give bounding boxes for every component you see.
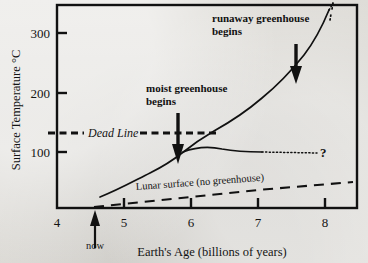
chart-svg: 300 200 100 4 5 6 7 8 Surface Temperatur…	[0, 0, 368, 263]
y-tick-label-100: 100	[31, 145, 51, 160]
x-tick-label-8: 8	[322, 215, 329, 230]
moist-greenhouse-arrow	[172, 113, 184, 164]
y-tick-label-200: 200	[31, 86, 51, 101]
x-axis-ticks	[124, 198, 325, 208]
lunar-surface-line	[94, 182, 353, 207]
x-tick-label-5: 5	[121, 215, 128, 230]
moist-greenhouse-label-line1: moist greenhouse	[146, 82, 227, 94]
now-marker: now	[86, 210, 105, 251]
greenhouse-curve	[100, 10, 329, 197]
runaway-greenhouse-label-line2: begins	[212, 25, 243, 37]
runaway-greenhouse-annotation: runaway greenhouse begins	[212, 12, 309, 84]
y-tick-label-300: 300	[31, 26, 51, 41]
now-marker-label: now	[86, 240, 105, 251]
runaway-greenhouse-arrow	[290, 44, 302, 84]
x-axis-title: Earth's Age (billions of years)	[137, 245, 286, 259]
y-axis-title: Surface Temperature °C	[9, 50, 23, 171]
x-tick-label-4: 4	[54, 215, 61, 230]
x-tick-label-7: 7	[255, 215, 262, 230]
x-tick-label-6: 6	[188, 215, 195, 230]
chart-figure: 300 200 100 4 5 6 7 8 Surface Temperatur…	[0, 0, 368, 263]
dead-line-label: Dead Line	[87, 126, 139, 140]
moist-greenhouse-branch-uncertain	[262, 152, 317, 153]
runaway-greenhouse-label-line1: runaway greenhouse	[212, 12, 309, 24]
moist-greenhouse-label-line2: begins	[146, 95, 177, 107]
moist-greenhouse-annotation: moist greenhouse begins	[146, 82, 227, 164]
lunar-surface-label: Lunar surface (no greenhouse)	[135, 172, 265, 193]
question-mark: ?	[320, 145, 327, 160]
moist-greenhouse-branch	[183, 147, 262, 152]
